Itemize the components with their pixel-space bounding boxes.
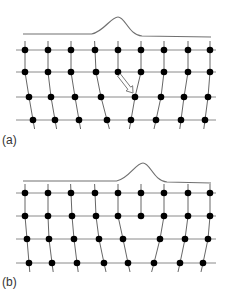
atom-dot [52,117,59,124]
atom-dot [202,117,209,124]
atom-dot [72,94,79,101]
atom-dot [128,117,135,124]
atom-dot [138,47,145,54]
lattice-column-line [71,41,81,129]
atom-dot [22,69,29,76]
atom-dot [26,260,33,267]
atom-dot [49,260,56,267]
atom-dot [93,69,100,76]
panel-a-label: (a) [2,133,17,147]
atom-dot [185,47,192,54]
atom-dot [115,190,122,197]
atom-dot [30,117,37,124]
atom-dot [115,47,122,54]
atom-dot [120,236,127,243]
atom-dot [45,213,52,220]
atom-dot [68,69,75,76]
atom-dot [45,47,52,54]
panel-b-label: (b) [2,275,17,289]
atom-dot [205,94,212,101]
lattice-column-line [152,184,164,272]
atom-dot [92,47,99,54]
atom-dot [157,236,164,243]
atom-dot [185,213,192,220]
atom-dot [200,260,207,267]
lattice-column-line [71,184,79,272]
atom-dot [132,94,139,101]
atom-dot [74,260,81,267]
atom-dot [45,69,52,76]
atom-dot [161,190,168,197]
atom-dot [104,117,111,124]
atom-dot [138,69,145,76]
lattice-column-line [95,184,106,272]
atom-dot [185,190,192,197]
lattice-column-line [129,41,141,129]
lattice-column-line [25,184,30,272]
atom-dot [92,190,99,197]
atom-dot [93,213,100,220]
atom-dot [98,94,105,101]
lattice-column-line [178,184,188,272]
panel-a [16,17,216,129]
lattice-column-line [48,184,53,272]
stress-pulse-curve [23,17,211,37]
atom-dot [48,94,55,101]
atom-dot [68,47,75,54]
atom-dot [96,236,103,243]
atom-dot [161,47,168,54]
atom-dot [71,236,78,243]
atom-dot [115,213,122,220]
atom-dot [22,190,29,197]
atom-dot [151,260,158,267]
lattice-column-line [48,41,57,129]
atom-dot [207,190,214,197]
atom-dot [138,213,145,220]
atom-dot [69,213,76,220]
atom-dot [76,117,83,124]
atom-dot [182,236,189,243]
atom-dot [185,69,192,76]
atom-dot [207,213,214,220]
panel-b [16,163,216,272]
atom-dot [207,69,214,76]
atom-dot [101,260,108,267]
atom-dot [26,94,33,101]
lattice-column-line [201,184,210,272]
atom-dot [22,47,29,54]
atom-dot [125,260,132,267]
atom-dot [46,236,53,243]
lattice-column-line [95,41,110,129]
dislocation-motion-arrow-icon [118,74,133,93]
lattice-column-line [25,41,35,129]
atom-dot [177,260,184,267]
atom-dot [24,236,31,243]
atom-dot [178,117,185,124]
atom-dot [138,190,145,197]
stress-pulse-curve [23,163,211,183]
lattice-column-line [154,41,164,129]
atom-dot [158,94,165,101]
lattice-column-line [118,184,130,272]
atom-dot [207,47,214,54]
atom-dot [161,69,168,76]
atom-dot [153,117,160,124]
lattice-column-line [180,41,188,129]
atom-dot [22,213,29,220]
lattice-column-line [204,41,210,129]
atom-dot [161,213,168,220]
atom-dot [181,94,188,101]
atom-dot [45,190,52,197]
edge-dislocation-diagram: (a) (b) [0,0,230,305]
atom-dot [68,190,75,197]
atom-dot [205,236,212,243]
